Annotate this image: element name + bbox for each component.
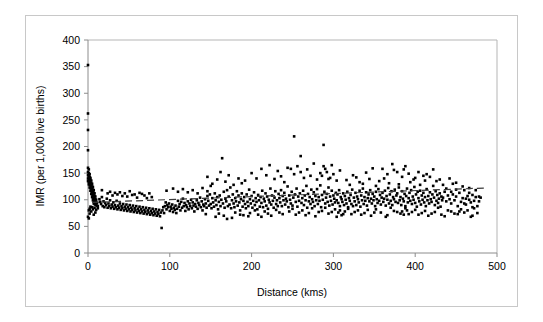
data-point <box>434 211 437 214</box>
data-point <box>391 163 394 166</box>
data-point <box>151 196 154 199</box>
data-point <box>442 184 445 187</box>
data-point <box>214 215 217 218</box>
data-point <box>219 171 222 174</box>
data-point <box>236 204 239 207</box>
data-point <box>95 209 98 212</box>
data-point <box>417 213 420 216</box>
data-point <box>402 197 405 200</box>
data-point <box>225 200 228 203</box>
data-point <box>237 194 240 197</box>
data-point <box>397 202 400 205</box>
data-point <box>330 164 333 167</box>
data-point <box>335 199 338 202</box>
data-point <box>478 200 481 203</box>
data-point <box>420 203 423 206</box>
data-point <box>371 167 374 170</box>
data-point <box>143 194 146 197</box>
data-point <box>272 200 275 203</box>
data-point <box>142 206 145 209</box>
data-point <box>455 195 458 198</box>
data-point <box>430 201 433 204</box>
data-point <box>98 198 101 201</box>
data-point <box>299 171 302 174</box>
data-point <box>325 196 328 199</box>
data-point <box>220 198 223 201</box>
data-point <box>428 202 431 205</box>
data-point <box>287 206 290 209</box>
y-axis-tick-label: 100 <box>62 193 80 205</box>
data-point <box>332 173 335 176</box>
data-point <box>260 168 263 171</box>
data-point <box>385 195 388 198</box>
data-point <box>87 112 90 115</box>
data-point <box>368 178 371 181</box>
data-point <box>282 199 285 202</box>
data-point <box>419 189 422 192</box>
data-point <box>311 198 314 201</box>
data-point <box>343 204 346 207</box>
data-point <box>452 193 455 196</box>
data-point <box>291 208 294 211</box>
data-point <box>468 192 471 195</box>
data-point <box>218 201 221 204</box>
data-point <box>107 202 110 205</box>
data-point <box>411 203 414 206</box>
data-point <box>448 198 451 201</box>
data-point <box>244 179 247 182</box>
data-point <box>263 200 266 203</box>
data-point <box>474 196 477 199</box>
data-point <box>187 191 190 194</box>
data-point <box>214 199 217 202</box>
data-point <box>148 192 151 195</box>
data-point <box>260 215 263 218</box>
data-point <box>398 199 401 202</box>
data-point <box>355 204 358 207</box>
data-point <box>308 212 311 215</box>
data-point <box>326 201 329 204</box>
data-point <box>269 187 272 190</box>
data-point <box>447 209 450 212</box>
data-point <box>223 206 226 209</box>
data-point <box>371 193 374 196</box>
data-point <box>278 211 281 214</box>
data-point <box>280 175 283 178</box>
data-point <box>231 217 234 220</box>
data-point <box>304 199 307 202</box>
data-point <box>211 182 214 185</box>
data-point <box>411 211 414 214</box>
data-point <box>369 189 372 192</box>
data-point <box>468 198 471 201</box>
data-point <box>277 193 280 196</box>
data-point <box>471 214 474 217</box>
data-point <box>224 180 227 183</box>
data-point <box>450 190 453 193</box>
data-point <box>233 206 236 209</box>
data-point <box>470 201 473 204</box>
data-point <box>393 188 396 191</box>
data-point <box>473 200 476 203</box>
data-point <box>227 174 230 177</box>
data-point <box>391 204 394 207</box>
data-point <box>375 190 378 193</box>
data-point <box>366 209 369 212</box>
data-point <box>239 209 242 212</box>
data-point <box>360 194 363 197</box>
data-point <box>165 189 168 192</box>
data-point <box>383 177 386 180</box>
data-point <box>332 194 335 197</box>
data-point <box>404 207 407 210</box>
data-point <box>124 192 127 195</box>
data-point <box>216 178 219 181</box>
data-point <box>379 194 382 197</box>
data-point <box>422 174 425 177</box>
data-point <box>114 192 117 195</box>
data-point <box>386 198 389 201</box>
data-point <box>264 192 267 195</box>
data-point <box>199 196 202 199</box>
data-point <box>348 184 351 187</box>
data-point <box>191 189 194 192</box>
data-point <box>396 171 399 174</box>
data-point <box>180 201 183 204</box>
data-point <box>105 204 108 207</box>
